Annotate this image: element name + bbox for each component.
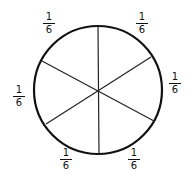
label-one-sixth-top-right: 1 6 — [134, 12, 150, 35]
label-one-sixth-bottom-right: 1 6 — [126, 148, 142, 171]
fraction-circle — [0, 0, 191, 175]
label-one-sixth-bottom-left: 1 6 — [58, 148, 74, 171]
label-one-sixth-top-left: 1 6 — [41, 12, 57, 35]
label-one-sixth-right: 1 6 — [167, 72, 183, 95]
label-one-sixth-left: 1 6 — [11, 85, 27, 108]
